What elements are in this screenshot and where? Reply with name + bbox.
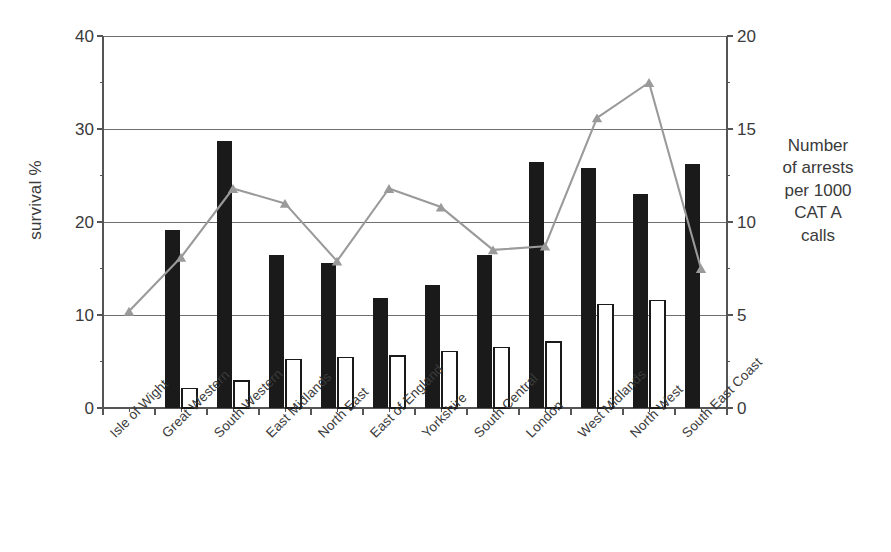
x-axis-label-north-west: North West [627, 382, 686, 441]
x-axis-label-north-east: North East [315, 384, 371, 440]
x-axis-label-yorkshire: Yorkshire [419, 390, 470, 441]
x-axis-label-london: London [523, 398, 566, 441]
x-axis-category-labels: Isle of WightGreat WesternSouth WesternE… [0, 0, 891, 552]
chart-canvas: survival % Number of arrests per 1000 CA… [0, 0, 891, 552]
x-axis-label-south-east-coast: South East Coast [679, 355, 765, 441]
